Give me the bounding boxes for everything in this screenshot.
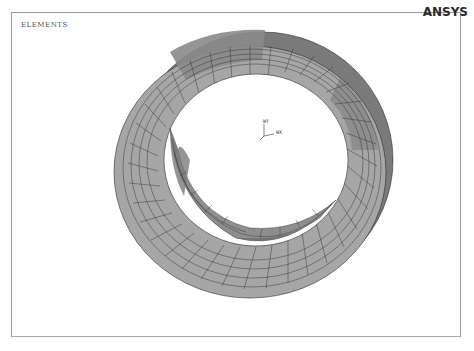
triad-x-label: WX [276, 129, 282, 135]
model-viewport[interactable]: WY WX [0, 0, 474, 351]
triad-y-label: WY [263, 118, 269, 124]
plot-type-label: ELEMENTS [21, 21, 68, 29]
ansys-logo: ANSYS [423, 5, 468, 19]
ring-mesh [114, 30, 393, 298]
